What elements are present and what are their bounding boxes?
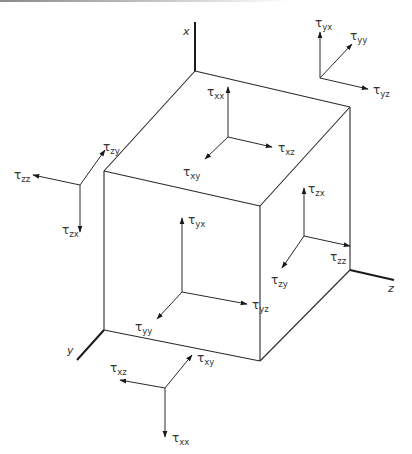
stress-label-tau-zx: τzx bbox=[62, 223, 79, 239]
stress-label-tau-xy: τxy bbox=[183, 165, 200, 181]
cube-edge-front-bottom bbox=[104, 330, 260, 361]
cube-edge-top-left bbox=[104, 71, 195, 171]
stress-label-tau-yy: τyy bbox=[135, 320, 152, 336]
stress-arrow-tau-zz bbox=[304, 236, 350, 246]
cube bbox=[104, 71, 350, 361]
stress-label-tau-xx: τxx bbox=[172, 431, 189, 447]
stress-group-top-right-outside: τyxτyyτyz bbox=[315, 16, 390, 99]
y-axis-label: y bbox=[66, 344, 74, 357]
stress-arrow-tau-yy bbox=[157, 292, 182, 319]
cube-edge-front-top bbox=[104, 171, 260, 206]
stress-label-tau-xy: τxy bbox=[197, 351, 214, 367]
stress-arrow-tau-yz bbox=[182, 292, 247, 304]
stress-arrow-tau-xz bbox=[120, 380, 165, 388]
stress-arrow-tau-xz bbox=[228, 137, 272, 147]
stress-arrow-tau-xy bbox=[205, 137, 228, 159]
axes: x y z bbox=[66, 22, 394, 360]
stress-label-tau-zy: τzy bbox=[103, 140, 120, 156]
stress-group-front-face: τyxτyzτyy bbox=[135, 213, 269, 336]
stress-label-tau-xz: τxz bbox=[110, 361, 127, 377]
stress-label-tau-zy: τzy bbox=[271, 273, 288, 289]
cube-edge-top-right bbox=[260, 107, 350, 206]
stress-group-bottom-outside: τxyτxzτxx bbox=[110, 351, 214, 447]
stress-label-tau-zx: τzx bbox=[308, 182, 325, 198]
stress-label-tau-xz: τxz bbox=[278, 141, 295, 157]
stress-label-tau-zz: τzz bbox=[330, 250, 347, 266]
z-axis-label: z bbox=[387, 282, 394, 295]
z-axis bbox=[350, 270, 394, 280]
stress-label-tau-xx: τxx bbox=[207, 85, 224, 101]
stress-label-tau-yx: τyx bbox=[188, 213, 205, 229]
stress-arrow-tau-zz bbox=[33, 175, 80, 185]
y-axis bbox=[77, 330, 104, 360]
cube-edge-top-back bbox=[195, 71, 350, 107]
stress-label-tau-zz: τzz bbox=[14, 168, 31, 184]
x-axis-label: x bbox=[182, 25, 190, 38]
stress-label-tau-yz: τyz bbox=[252, 298, 269, 314]
stress-arrow-tau-xy bbox=[165, 355, 192, 388]
stress-arrow-tau-yy bbox=[320, 44, 352, 78]
stress-group-top-face: τxxτxzτxy bbox=[183, 85, 295, 181]
stress-label-tau-yz: τyz bbox=[373, 83, 390, 99]
stress-arrow-tau-zy bbox=[80, 150, 105, 185]
stress-element-diagram: x y z τxxτxzτxyτyxτyzτyyτzxτzzτzyτzyτzzτ… bbox=[0, 0, 412, 454]
stress-group-right-face: τzxτzzτzy bbox=[271, 182, 350, 289]
stress-arrow-tau-yz bbox=[320, 78, 368, 89]
stress-label-tau-yx: τyx bbox=[315, 16, 332, 32]
stress-arrow-tau-zy bbox=[282, 236, 304, 268]
stress-label-tau-yy: τyy bbox=[350, 29, 367, 45]
